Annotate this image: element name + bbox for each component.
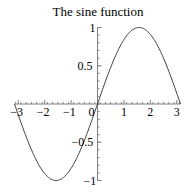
y-tick-label: 0.5 <box>78 60 93 72</box>
y-tick-label: 1 <box>90 22 96 34</box>
x-tick-label: −2 <box>37 106 50 118</box>
x-tick-label: −3 <box>10 106 23 118</box>
x-tick-label: 3 <box>174 106 180 118</box>
x-tick-label: 2 <box>147 106 153 118</box>
y-tick-label: −1 <box>84 175 97 187</box>
x-tick-label: −1 <box>63 106 76 118</box>
x-tick-label: 1 <box>121 106 127 118</box>
y-tick-label: −0.5 <box>72 136 94 148</box>
x-tick-label: 0 <box>89 106 95 118</box>
